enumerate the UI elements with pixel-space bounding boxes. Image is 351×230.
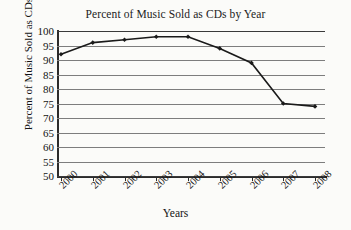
data-point-2003	[154, 35, 159, 40]
y-tick-label-90: 90	[43, 55, 54, 66]
plot-area	[57, 31, 325, 176]
y-tick-label-50: 50	[43, 171, 54, 182]
data-point-2008	[313, 104, 318, 109]
y-tick-label-85: 85	[43, 70, 54, 81]
data-point-2004	[186, 35, 191, 40]
y-tick-label-75: 75	[43, 99, 54, 110]
y-tick-label-95: 95	[43, 41, 54, 52]
y-axis-tick-labels: 10095908580757065605550	[28, 31, 54, 176]
data-point-2001	[90, 40, 95, 45]
y-tick-label-70: 70	[43, 113, 54, 124]
data-point-2000	[59, 52, 64, 57]
y-tick-label-60: 60	[43, 142, 54, 153]
x-axis-title: Years	[0, 207, 351, 219]
chart-title: Percent of Music Sold as CDs by Year	[0, 8, 351, 20]
y-tick-label-100: 100	[38, 26, 55, 37]
y-tick-label-65: 65	[43, 128, 54, 139]
series-line	[61, 37, 315, 107]
y-tick-label-80: 80	[43, 84, 54, 95]
chart-screenshot: Percent of Music Sold as CDs by Year Per…	[0, 0, 351, 230]
data-point-2002	[122, 37, 127, 42]
y-tick-label-55: 55	[43, 157, 54, 168]
data-series-line	[57, 31, 325, 176]
